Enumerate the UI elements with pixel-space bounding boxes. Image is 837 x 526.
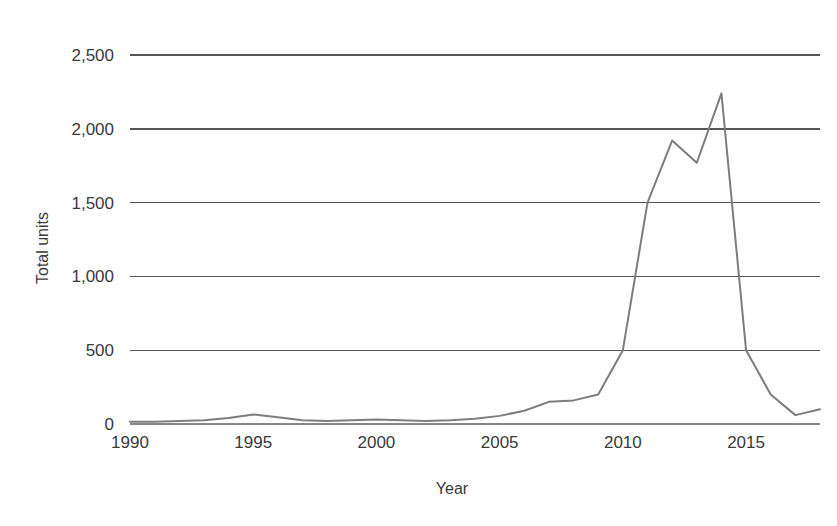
y-axis-tick-label: 2,000 — [71, 120, 114, 139]
x-axis-tick-label: 2000 — [358, 433, 396, 452]
x-axis-tick-label: 1995 — [234, 433, 272, 452]
y-axis-tick-label: 2,500 — [71, 46, 114, 65]
chart-container: 05001,0001,5002,0002,500 199019952000200… — [0, 0, 837, 526]
line-chart: 05001,0001,5002,0002,500 199019952000200… — [0, 0, 837, 526]
y-axis-tick-label: 1,000 — [71, 267, 114, 286]
x-axis-tick-label: 2015 — [727, 433, 765, 452]
y-axis-title: Total units — [34, 212, 51, 284]
x-axis-title: Year — [436, 480, 469, 497]
y-axis-tick-label: 1,500 — [71, 194, 114, 213]
y-axis-tick-label: 0 — [105, 415, 114, 434]
x-axis-tick-label: 1990 — [111, 433, 149, 452]
x-axis-tick-label: 2010 — [604, 433, 642, 452]
x-axis-tick-label: 2005 — [481, 433, 519, 452]
y-axis-tick-label: 500 — [86, 341, 114, 360]
